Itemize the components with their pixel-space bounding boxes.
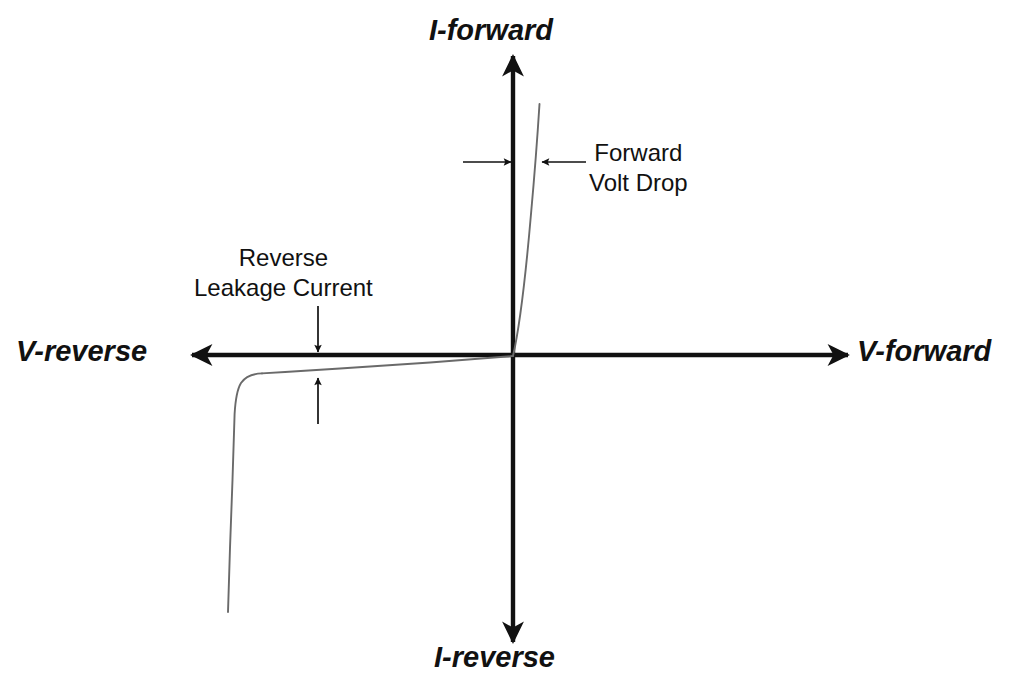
forward-conduction-curve bbox=[513, 104, 540, 356]
reverse-leakage-curve bbox=[262, 356, 513, 373]
reverse-breakdown-curve bbox=[228, 373, 262, 612]
diode-characteristic-curve bbox=[228, 104, 540, 612]
forward-volt-drop-line-1: Forward bbox=[589, 138, 688, 168]
forward-volt-drop-line-2: Volt Drop bbox=[589, 168, 688, 198]
reverse-leakage-line-2: Leakage Current bbox=[194, 273, 373, 303]
axis-label-v-forward: V-forward bbox=[857, 335, 991, 368]
axis-label-i-reverse: I-reverse bbox=[434, 641, 555, 674]
diagram-canvas: I-forward I-reverse V-reverse V-forward … bbox=[0, 0, 1011, 691]
axes-group bbox=[192, 56, 848, 642]
annotation-reverse-leakage-current: Reverse Leakage Current bbox=[194, 243, 373, 303]
reverse-leakage-line-1: Reverse bbox=[194, 243, 373, 273]
axis-label-v-reverse: V-reverse bbox=[16, 335, 147, 368]
axis-label-i-forward: I-forward bbox=[429, 14, 553, 47]
annotation-forward-volt-drop: Forward Volt Drop bbox=[589, 138, 688, 198]
